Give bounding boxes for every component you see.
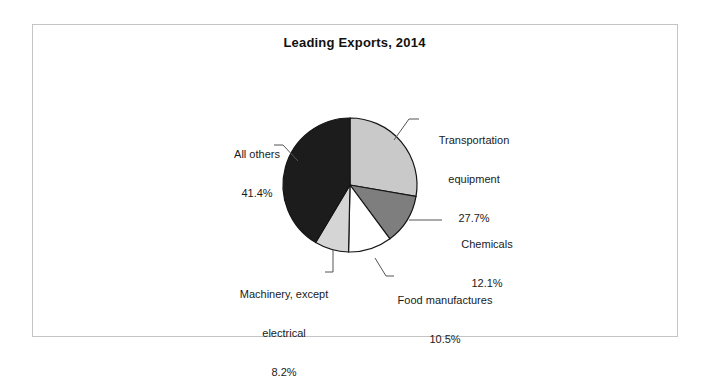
pie-slice-transportation[interactable] xyxy=(350,118,417,196)
pie-label-transportation-name-1: Transportation xyxy=(418,134,530,147)
pie-label-chemicals-name: Chemicals xyxy=(444,238,530,251)
pie-label-food-manufactures: Food manufactures 10.5% xyxy=(384,268,506,372)
leader-line-transportation xyxy=(394,119,419,140)
pie-label-all-others-percent: 41.4% xyxy=(212,187,302,200)
pie-label-machinery-name-2: electrical xyxy=(222,327,346,340)
pie-label-food-manufactures-name: Food manufactures xyxy=(384,294,506,307)
pie-label-all-others-name: All others xyxy=(212,148,302,161)
pie-label-machinery: Machinery, except electrical 8.2% xyxy=(222,262,346,380)
pie-label-all-others: All others 41.4% xyxy=(212,122,302,226)
pie-label-machinery-percent: 8.2% xyxy=(222,366,346,379)
pie-label-transportation-name-2: equipment xyxy=(418,173,530,186)
pie-label-machinery-name-1: Machinery, except xyxy=(222,288,346,301)
pie-label-food-manufactures-percent: 10.5% xyxy=(384,333,506,346)
pie-slices xyxy=(283,118,417,252)
